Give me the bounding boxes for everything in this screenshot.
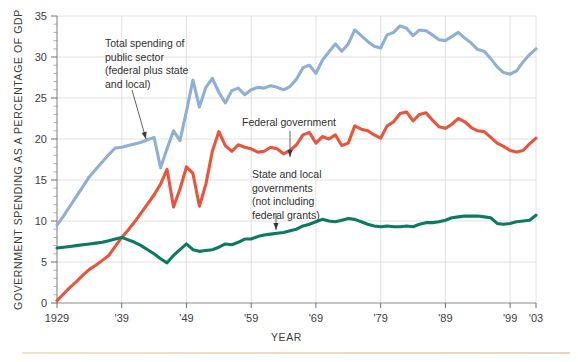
y-tick-label: 5 [41, 256, 47, 268]
state-local-annotation-line: (not including [252, 195, 315, 207]
federal-annotation-arrowhead-icon [287, 150, 292, 157]
x-tick-label: 1929 [45, 312, 69, 324]
state-local-annotation-arrowhead-icon [273, 223, 278, 230]
total-annotation-line: Total spending of [105, 37, 184, 49]
x-tick-label: '49 [179, 312, 193, 324]
government-spending-line-chart: 051015202530351929'39'49'59'69'79'89'99'… [0, 0, 578, 362]
total-annotation-leader-line [132, 90, 146, 139]
x-tick-label: '03 [529, 312, 543, 324]
bottom-rule-divider [22, 352, 570, 354]
y-tick-label: 25 [35, 92, 47, 104]
y-tick-label: 15 [35, 174, 47, 186]
y-tick-label: 20 [35, 133, 47, 145]
total-annotation-line: public sector [105, 51, 164, 63]
state-local-annotation-line: State and local [252, 168, 321, 180]
y-axis-title: GOVERNMENT SPENDING AS A PERCENTAGE OF G… [12, 9, 24, 310]
federal-annotation-line: Federal government [242, 116, 336, 128]
x-tick-label: '39 [115, 312, 129, 324]
series-line-state_local [57, 215, 536, 263]
total-annotation-line: (federal plus state [105, 64, 189, 76]
total-annotation-line: and local) [105, 78, 151, 90]
x-tick-label: '79 [373, 312, 387, 324]
state-local-annotation-line: federal grants) [252, 209, 320, 221]
total-annotation-arrowhead-icon [142, 132, 147, 139]
y-tick-label: 35 [35, 10, 47, 22]
x-tick-label: '59 [244, 312, 258, 324]
y-tick-label: 30 [35, 51, 47, 63]
state-local-annotation-line: governments [252, 182, 313, 194]
x-tick-label: '69 [309, 312, 323, 324]
x-axis-title: YEAR [271, 331, 302, 343]
chart-page: 051015202530351929'39'49'59'69'79'89'99'… [0, 0, 578, 362]
x-tick-label: '99 [503, 312, 517, 324]
x-tick-label: '89 [438, 312, 452, 324]
y-tick-label: 10 [35, 215, 47, 227]
y-tick-label: 0 [41, 297, 47, 309]
